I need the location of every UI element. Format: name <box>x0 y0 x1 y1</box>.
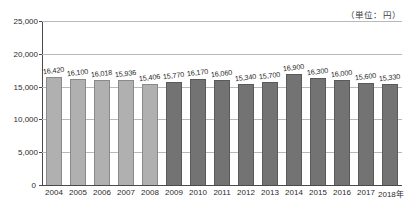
x-tick-label-2007: 2007 <box>114 188 138 197</box>
y-tick-label: 5,000 <box>0 148 38 157</box>
x-tick-label-2018: 2018年 <box>378 188 402 199</box>
bar-2007 <box>118 80 134 185</box>
bar-value-label: 15,936 <box>114 68 136 80</box>
gridline-0 <box>42 185 402 186</box>
y-tick-label: 10,000 <box>0 115 38 124</box>
bar-value-label: 15,600 <box>354 70 376 82</box>
bar-slot: 16,018 <box>94 21 110 185</box>
bar-value-label: 16,420 <box>42 65 64 77</box>
x-tick-label-2016: 2016 <box>330 188 354 197</box>
x-tick-label-2009: 2009 <box>162 188 186 197</box>
bar-slot: 16,900 <box>286 21 302 185</box>
bar-slot: 15,340 <box>238 21 254 185</box>
bars-container: 16,42016,10016,01815,93615,40615,77016,1… <box>42 21 402 185</box>
x-tick-label-2004: 2004 <box>42 188 66 197</box>
y-tick-label: 15,000 <box>0 82 38 91</box>
bar-2005 <box>70 79 86 185</box>
bar-2014 <box>286 74 302 185</box>
bar-value-label: 16,170 <box>186 67 208 79</box>
bar-slot: 16,060 <box>214 21 230 185</box>
bar-2004 <box>46 77 62 185</box>
x-tick-label-2011: 2011 <box>210 188 234 197</box>
plot-area: 16,42016,10016,01815,93615,40615,77016,1… <box>42 21 402 185</box>
bar-value-label: 16,000 <box>330 68 352 80</box>
y-tick-label-zero: 0 <box>24 181 36 190</box>
bar-slot: 15,770 <box>166 21 182 185</box>
bar-2009 <box>166 82 182 185</box>
bar-value-label: 15,406 <box>138 72 160 84</box>
bar-value-label: 16,300 <box>306 66 328 78</box>
y-tick-label: 25,000 <box>0 17 38 26</box>
bar-slot: 15,406 <box>142 21 158 185</box>
x-tick-label-2015: 2015 <box>306 188 330 197</box>
x-tick-label-2006: 2006 <box>90 188 114 197</box>
y-tick-label: 20,000 <box>0 49 38 58</box>
bar-slot: 16,300 <box>310 21 326 185</box>
x-tick-label-2008: 2008 <box>138 188 162 197</box>
bar-slot: 15,936 <box>118 21 134 185</box>
bar-value-label: 15,340 <box>234 72 256 84</box>
bar-value-label: 15,700 <box>258 70 280 82</box>
bar-2013 <box>262 82 278 185</box>
y-tick-mark <box>39 185 42 186</box>
bar-value-label: 16,900 <box>282 62 304 74</box>
bar-2008 <box>142 84 158 185</box>
bar-2010 <box>190 79 206 185</box>
bar-2012 <box>238 84 254 185</box>
bar-value-label: 16,060 <box>210 67 232 79</box>
x-tick-label-2017: 2017 <box>354 188 378 197</box>
bar-value-label: 15,330 <box>378 72 400 84</box>
bar-2017 <box>358 83 374 185</box>
bar-2006 <box>94 80 110 185</box>
bar-2015 <box>310 78 326 185</box>
bar-slot: 16,170 <box>190 21 206 185</box>
bar-slot: 16,420 <box>46 21 62 185</box>
x-tick-label-2013: 2013 <box>258 188 282 197</box>
bar-chart: （単位：円） 0 16,42016,10016,01815,93615,4061… <box>0 0 409 215</box>
bar-value-label: 15,770 <box>162 69 184 81</box>
x-axis-labels: 2004200520062007200820092010201120122013… <box>42 188 402 204</box>
x-tick-label-2014: 2014 <box>282 188 306 197</box>
unit-annotation: （単位：円） <box>346 8 401 20</box>
bar-value-label: 16,100 <box>66 67 88 79</box>
bar-slot: 16,100 <box>70 21 86 185</box>
bar-2018 <box>382 84 398 185</box>
bar-slot: 15,330 <box>382 21 398 185</box>
bar-slot: 15,700 <box>262 21 278 185</box>
x-tick-label-2012: 2012 <box>234 188 258 197</box>
bar-2016 <box>334 80 350 185</box>
bar-2011 <box>214 80 230 185</box>
bar-slot: 16,000 <box>334 21 350 185</box>
bar-slot: 15,600 <box>358 21 374 185</box>
x-tick-label-2005: 2005 <box>66 188 90 197</box>
bar-value-label: 16,018 <box>90 68 112 80</box>
x-tick-label-2010: 2010 <box>186 188 210 197</box>
